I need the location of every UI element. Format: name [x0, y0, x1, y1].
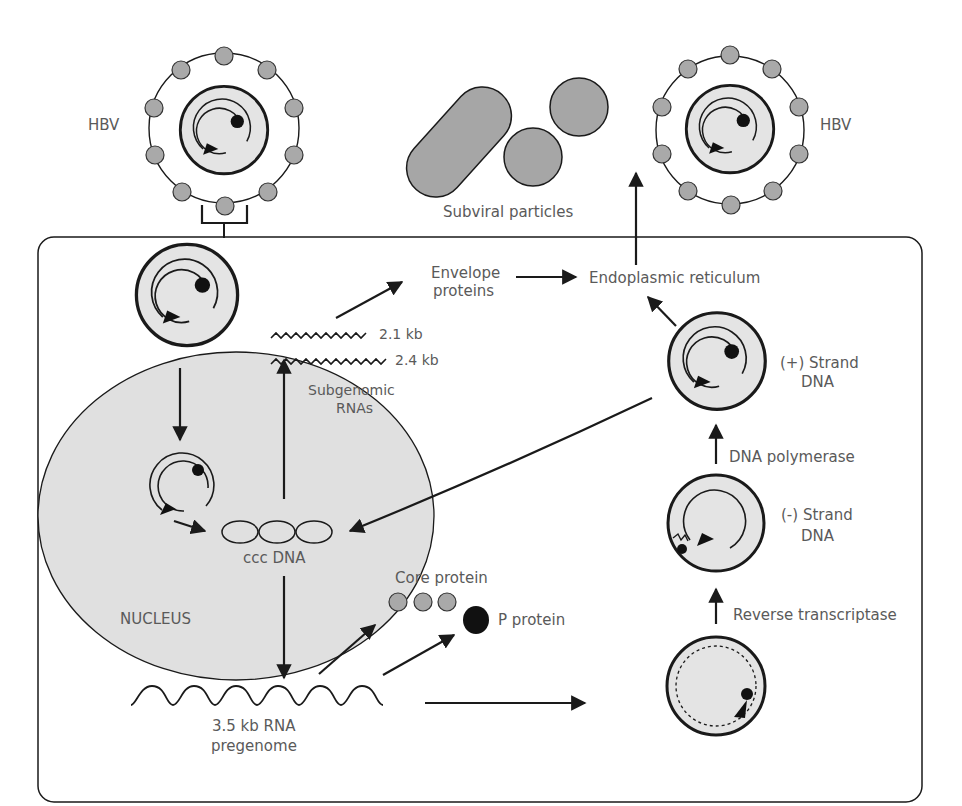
hbv-lifecycle-diagram: HBV Subviral particles HBV NUCLEUS [0, 0, 962, 806]
subviral-particles-label: Subviral particles [443, 203, 573, 221]
hbv-left-label: HBV [88, 116, 120, 134]
plus-strand-capsid-icon [669, 313, 766, 410]
envelope-proteins-label-line1: Envelope [431, 264, 500, 282]
pregenome-label-line1: 3.5 kb RNA [212, 717, 296, 735]
minus-strand-label-line2: DNA [801, 527, 835, 545]
envelope-proteins-label-line2: proteins [433, 282, 494, 300]
nucleus [38, 352, 434, 680]
plus-strand-label-line1: (+) Strand [780, 354, 859, 372]
translation-arrow [336, 282, 402, 318]
subviral-particles [395, 75, 608, 209]
core-protein-label: Core protein [395, 569, 488, 587]
minus-strand-capsid-icon [668, 475, 764, 571]
plus-strand-label-line2: DNA [801, 373, 835, 391]
dna-polymerase-label: DNA polymerase [729, 448, 855, 466]
pregenomic-rna-icon [131, 686, 383, 705]
p-protein-icon [463, 606, 489, 634]
minus-strand-label-line1: (-) Strand [781, 506, 853, 524]
virion-capsid-icon [686, 85, 773, 172]
p-translation-arrow [383, 635, 454, 675]
pregenome-label-line2: pregenome [211, 737, 297, 755]
rna-2-4kb-label: 2.4 kb [395, 352, 439, 368]
rna-2-1kb-icon [271, 333, 366, 338]
hbv-virion-right [653, 46, 808, 214]
filamentous-particle-icon [395, 75, 524, 209]
incoming-capsid-icon [136, 244, 237, 345]
spherical-particle-icon [550, 78, 608, 136]
pgrna-capsid-icon [667, 637, 765, 735]
rna-2-1kb-label: 2.1 kb [379, 326, 423, 342]
subgenomic-rnas-label-line2: RNAs [336, 400, 373, 416]
nucleus-label: NUCLEUS [120, 610, 191, 628]
ccc-dna-label: ccc DNA [243, 549, 306, 567]
hbv-right-label: HBV [820, 116, 852, 134]
hbv-virion-left [145, 47, 303, 238]
endoplasmic-reticulum-label: Endoplasmic reticulum [589, 269, 760, 287]
core-protein-icons [389, 593, 456, 611]
p-protein-label: P protein [498, 611, 565, 629]
spherical-particle-icon [504, 128, 562, 186]
reverse-transcriptase-label: Reverse transcriptase [733, 606, 897, 624]
virion-capsid-icon [180, 86, 267, 173]
envelopment-arrow [648, 297, 676, 326]
subgenomic-rnas-label-line1: Subgenomic [308, 382, 395, 398]
